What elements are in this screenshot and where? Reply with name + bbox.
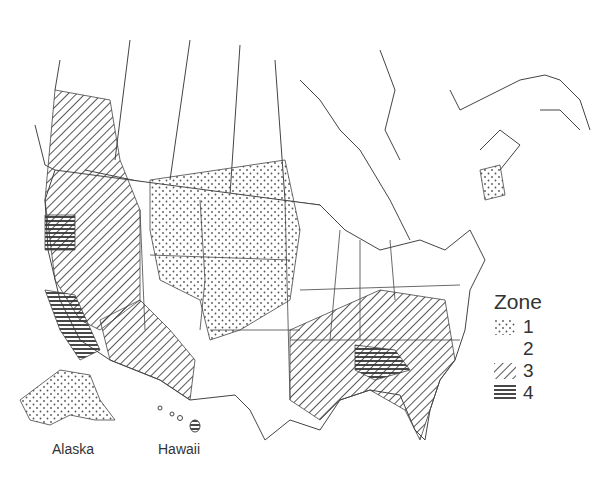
legend-label: 1 <box>523 316 534 338</box>
alaska-inset <box>20 370 115 425</box>
hawaii-label: Hawaii <box>158 441 200 457</box>
zone-map <box>0 0 615 493</box>
dots-swatch-icon <box>494 319 516 335</box>
legend-label: 4 <box>523 382 534 404</box>
legend-title: Zone <box>494 290 542 314</box>
blank-swatch-icon <box>494 341 516 357</box>
zone1-maine <box>480 165 505 200</box>
hatch-swatch-icon <box>494 363 516 379</box>
legend-label: 2 <box>523 338 534 360</box>
legend-item-zone2: 2 <box>494 338 542 360</box>
hawaii-inset <box>158 406 200 432</box>
lines-swatch-icon <box>494 385 516 401</box>
legend: Zone 1 2 3 4 <box>494 290 542 404</box>
legend-label: 3 <box>523 360 534 382</box>
legend-item-zone1: 1 <box>494 316 542 338</box>
alaska-label: Alaska <box>52 441 94 457</box>
legend-item-zone4: 4 <box>494 382 542 404</box>
zone4-oregon-coast <box>45 215 75 250</box>
legend-item-zone3: 3 <box>494 360 542 382</box>
